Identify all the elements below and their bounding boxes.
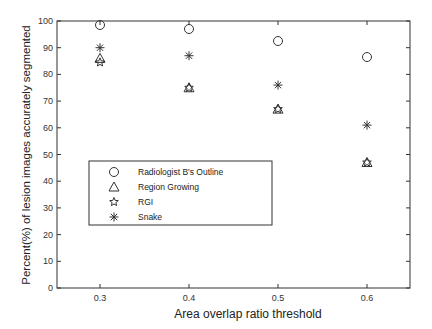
- y-tick-label: 100: [38, 16, 53, 26]
- asterisk-point: [363, 121, 372, 130]
- x-tick-label: 0.5: [272, 293, 285, 303]
- y-axis-label: Percent(%) of lesion images accurately s…: [20, 25, 32, 285]
- x-tick-label: 0.3: [94, 293, 107, 303]
- legend-label: Radiologist B's Outline: [138, 167, 224, 177]
- y-tick-label: 50: [43, 150, 53, 160]
- y-tick-label: 10: [43, 256, 53, 266]
- legend-label: Snake: [138, 212, 162, 222]
- scatter-chart: 01020304050607080901000.30.40.50.6 Area …: [0, 0, 432, 329]
- y-tick-label: 20: [43, 230, 53, 240]
- y-tick-label: 0: [48, 283, 53, 293]
- y-tick-label: 60: [43, 123, 53, 133]
- asterisk-point: [185, 51, 194, 60]
- asterisk-point: [96, 43, 105, 52]
- x-axis-label: Area overlap ratio threshold: [174, 307, 321, 321]
- asterisk-icon: [110, 213, 119, 222]
- x-tick-label: 0.4: [183, 293, 196, 303]
- legend-label: RGI: [138, 197, 153, 207]
- x-tick-label: 0.6: [361, 293, 374, 303]
- y-tick-label: 80: [43, 69, 53, 79]
- asterisk-point: [274, 81, 283, 90]
- y-tick-label: 70: [43, 96, 53, 106]
- y-tick-label: 40: [43, 176, 53, 186]
- y-tick-label: 90: [43, 43, 53, 53]
- y-tick-label: 30: [43, 203, 53, 213]
- legend-label: Region Growing: [138, 182, 199, 192]
- legend: Radiologist B's OutlineRegion GrowingRGI…: [89, 161, 272, 225]
